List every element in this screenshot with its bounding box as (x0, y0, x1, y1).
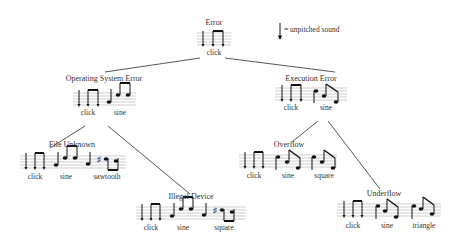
connector-os-illegaldevice (108, 126, 190, 194)
node-title-os-error: Operating System Error (66, 74, 142, 83)
connector-error-exec (225, 58, 335, 72)
node-label-square: square (314, 172, 334, 180)
node-label-click: click (144, 224, 159, 232)
node-title-illegal-device: Illegal Device (168, 192, 213, 201)
unpitched-note-icon (279, 23, 282, 39)
node-label-sine: sine (381, 222, 393, 230)
node-label-click: click (346, 222, 361, 230)
legend-text: = unpitched sound (284, 25, 339, 34)
node-title-underflow: Underflow (367, 189, 402, 198)
node-label-click: click (81, 109, 96, 117)
node-label-click: click (284, 104, 299, 112)
staff-overflow (239, 150, 337, 170)
staff-underflow (337, 197, 441, 219)
sharp-icon: ♯ (213, 206, 217, 215)
node-label-sine: sine (282, 172, 294, 180)
staff-os-error (73, 83, 136, 107)
node-label-click: click (247, 172, 262, 180)
staff-error (197, 31, 231, 47)
node-label-triangle: triangle (413, 222, 436, 230)
earcon-tree-diagram: ♯ ♯ (0, 0, 453, 240)
node-label-sine: sine (320, 104, 332, 112)
node-label-sine: sine (60, 173, 72, 181)
node-title-file-unknown: File Unknown (49, 140, 95, 149)
node-label-sawtooth: sawtooth (93, 173, 120, 181)
node-label-click: click (207, 49, 222, 57)
node-label-sine: sine (177, 224, 189, 232)
node-label-sine: sine (114, 109, 126, 117)
sharp-icon: ♯ (97, 155, 101, 164)
connector-error-os (105, 58, 200, 72)
node-title-error: Error (206, 18, 223, 27)
node-title-overflow: Overflow (274, 140, 305, 149)
connector-exec-overflow (292, 121, 318, 142)
node-title-exec-error: Execution Error (285, 74, 336, 83)
node-label-click: click (28, 173, 43, 181)
staff-exec-error (275, 84, 347, 104)
staff-file-unknown: ♯ (20, 146, 126, 170)
node-label-square: square (214, 224, 234, 232)
